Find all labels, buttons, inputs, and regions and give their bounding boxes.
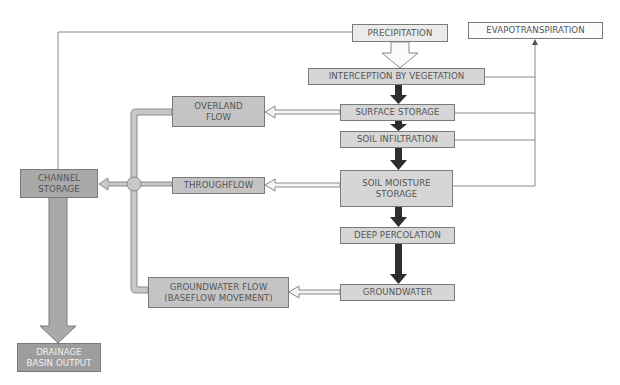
- deep-percolation-node: DEEP PERCOLATION: [340, 227, 455, 244]
- evapotranspiration-node: EVAPOTRANSPIRATION: [468, 22, 603, 39]
- overland-flow-node: OVERLAND FLOW: [172, 96, 265, 127]
- hollow-left-arrows: [265, 106, 340, 298]
- surface-storage-node: SURFACE STORAGE: [340, 104, 455, 121]
- groundwater-flow-node: GROUNDWATER FLOW (BASEFLOW MOVEMENT): [148, 277, 289, 308]
- channel-to-output-arrow: [40, 197, 76, 343]
- pipe-network: [99, 109, 172, 293]
- precipitation-node: PRECIPITATION: [352, 24, 448, 42]
- groundwater-node: GROUNDWATER: [340, 284, 455, 301]
- interception-node: INTERCEPTION BY VEGETATION: [308, 68, 485, 85]
- evapotranspiration-arrowhead: [532, 39, 538, 45]
- channel-storage-node: CHANNEL STORAGE: [20, 169, 98, 198]
- precipitation-arrow: [382, 42, 418, 68]
- throughflow-node: THROUGHFLOW: [172, 177, 265, 194]
- soil-moisture-storage-node: SOIL MOISTURE STORAGE: [340, 170, 453, 207]
- drainage-basin-output-node: DRAINAGE BASIN OUTPUT: [17, 343, 101, 372]
- soil-infiltration-node: SOIL INFILTRATION: [340, 131, 455, 148]
